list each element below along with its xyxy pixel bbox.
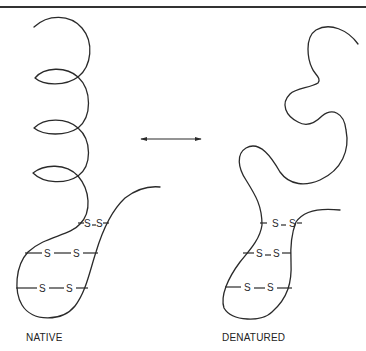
svg-text:S: S — [73, 248, 80, 259]
native-disulfide-top: S S — [78, 218, 109, 229]
svg-text:S: S — [272, 218, 279, 229]
svg-text:S: S — [273, 248, 280, 259]
native-structure: S S S S S S — [16, 17, 160, 318]
svg-text:S: S — [44, 248, 51, 259]
native-helix — [33, 17, 90, 181]
svg-text:S: S — [267, 282, 274, 293]
denatured-structure: S S S S S S — [223, 27, 358, 319]
svg-text:S: S — [256, 248, 263, 259]
denatured-disulfide-bottom: S S — [225, 282, 292, 293]
native-disulfide-bottom: S S — [16, 283, 88, 294]
svg-text:S: S — [39, 283, 46, 294]
denatured-chain — [223, 27, 358, 319]
svg-text:S: S — [289, 218, 296, 229]
folding-diagram: S S S S S S S S — [0, 0, 366, 351]
svg-text:S: S — [66, 283, 73, 294]
denatured-label: DENATURED — [222, 332, 285, 343]
native-label: NATIVE — [26, 332, 63, 343]
svg-text:S: S — [84, 218, 91, 229]
svg-text:S: S — [96, 218, 103, 229]
svg-text:S: S — [244, 282, 251, 293]
native-disulfide-middle: S S — [25, 248, 98, 259]
native-loop — [17, 176, 160, 318]
